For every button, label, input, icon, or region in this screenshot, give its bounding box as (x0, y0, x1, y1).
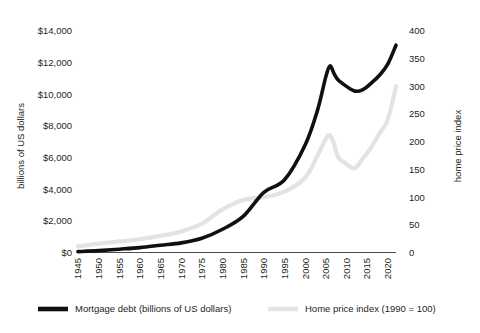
y-axis-right-tick: 50 (409, 219, 420, 230)
x-axis-tick: 2005 (320, 258, 331, 279)
x-axis-tick: 1995 (279, 258, 290, 279)
x-axis-tick: 2015 (361, 258, 372, 279)
x-axis-tick: 2010 (341, 258, 352, 279)
y-axis-left-tick: $8,000 (43, 120, 72, 131)
chart-figure: $0$2,000$4,000$6,000$8,000$10,000$12,000… (0, 0, 480, 333)
y-axis-left-tick: $12,000 (38, 57, 72, 68)
y-axis-right-tick: 0 (409, 247, 414, 258)
x-axis-tick: 1980 (217, 258, 228, 279)
y-axis-left-tick: $2,000 (43, 215, 72, 226)
y-axis-right-tick: 400 (409, 25, 425, 36)
x-axis-tick: 1955 (114, 258, 125, 279)
y-axis-left-tick: $14,000 (38, 25, 72, 36)
y-axis-left-tick: $6,000 (43, 152, 72, 163)
y-axis-right-tick: 150 (409, 164, 425, 175)
legend-label: Mortgage debt (billions of US dollars) (75, 303, 231, 314)
x-axis-tick: 1970 (176, 258, 187, 279)
x-axis-tick: 1975 (196, 258, 207, 279)
y-axis-left-tick: $0 (61, 247, 72, 258)
y-axis-right-tick: 100 (409, 192, 425, 203)
legend-label: Home price index (1990 = 100) (305, 303, 436, 314)
x-axis-tick: 2020 (382, 258, 393, 279)
y-axis-right-tick: 200 (409, 136, 425, 147)
y-axis-right-tick: 350 (409, 53, 425, 64)
x-axis-tick: 1945 (72, 258, 83, 279)
x-axis-tick: 1950 (93, 258, 104, 279)
x-axis-tick: 1985 (238, 258, 249, 279)
chart-background (0, 0, 480, 333)
x-axis-tick: 2000 (300, 258, 311, 279)
y-axis-right-tick: 250 (409, 108, 425, 119)
x-axis-tick: 1965 (155, 258, 166, 279)
chart-svg: $0$2,000$4,000$6,000$8,000$10,000$12,000… (0, 0, 480, 333)
x-axis-tick: 1960 (134, 258, 145, 279)
y-axis-left-tick: $10,000 (38, 89, 72, 100)
y-axis-left-tick: $4,000 (43, 184, 72, 195)
x-axis-tick: 1990 (258, 258, 269, 279)
y-axis-right-tick: 300 (409, 81, 425, 92)
y-axis-right-title: home price index (452, 110, 463, 183)
y-axis-left-title: billions of US dollars (15, 103, 26, 189)
